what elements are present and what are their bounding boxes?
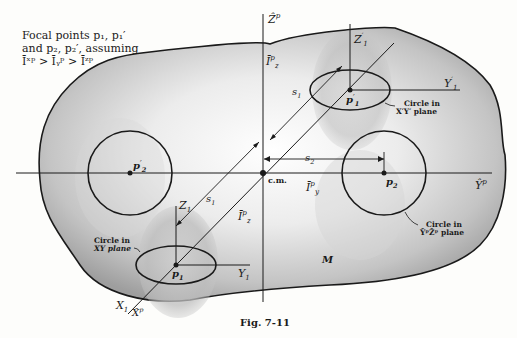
center-of-mass-point [260,170,266,176]
iy-label: Īpy [306,180,319,195]
circle-xpyp-annotation: Circle in X′Y′ plane [396,100,440,116]
circle-ypzp-annotation: Circle in ŶᵖẐᵖ plane [420,221,464,237]
circle-xpyp-line2: X′Y′ plane [396,108,440,116]
iz-upper-label: Īpz [266,54,279,69]
z1-label: Z1 [179,200,191,213]
y1-prime-label: Y′1 [444,76,457,91]
s2-label: s2 [305,153,314,166]
iz-lower-label: Īpz [238,209,251,224]
caption-line-3: Īˣᵖ > Īᵧᵖ > Īᶻᵖ [22,56,93,67]
mass-label: M [322,255,333,265]
circle-xy-line2: XY plane [94,245,131,253]
point-p2 [382,171,387,176]
figure-label: Fig. 7-11 [240,318,290,328]
y-hat-label: Ŷp [475,178,487,191]
p2-prime-label: p′2 [133,160,146,174]
y1-label: Y1 [238,268,250,281]
p1-label: p1 [172,269,184,282]
point-p1 [174,263,179,268]
p2-label: p2 [386,177,398,190]
z1-prime-label: Z′1 [354,32,368,47]
point-p2-prime [128,171,133,176]
cm-label: c.m. [268,176,287,184]
circle-xy-annotation: Circle in XY plane [94,237,131,253]
z-hat-label: Ẑp [268,12,280,25]
s1-lower-label: s1 [206,194,215,207]
circle-ypzp-line2: ŶᵖẐᵖ plane [420,229,464,237]
p1-prime-label: p′1 [346,94,359,108]
caption-line-2: and p₂, p₂′, assuming [22,43,139,54]
x-hat-label: X̂p [132,307,143,318]
point-p1-prime [348,88,353,93]
caption-line-1: Focal points p₁, p₁′ [22,30,126,41]
x1-label: X1 [116,300,128,313]
lobe-p2 [315,150,405,260]
s1-upper-label: s1 [292,87,301,100]
